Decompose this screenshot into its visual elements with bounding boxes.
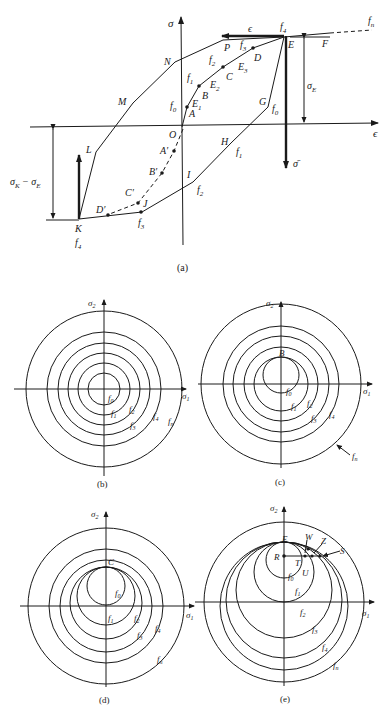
label-H: H [220, 136, 229, 147]
panel-b-isotropic: σ2 σ1 f0 f1 f2 f3 f4 fn (b) [14, 298, 189, 489]
caption-d: (d) [99, 695, 110, 705]
sigma-K-minus-E-label: σK − σE [10, 176, 41, 190]
point-C-d: C [108, 557, 115, 567]
label-f0-lower: f0 [272, 103, 279, 117]
epsilon-axis [30, 123, 378, 127]
sigma-axis-label: σ [168, 17, 174, 29]
sigma1-label-b: σ1 [182, 391, 189, 402]
path-F-fn [330, 30, 372, 33]
label-P: P [223, 42, 230, 53]
point-C [221, 65, 225, 69]
label-S: S [340, 546, 345, 556]
label-f1-e: f1 [295, 586, 301, 597]
path-E-F [284, 33, 330, 37]
label-f1-d: f1 [108, 613, 114, 624]
sigma2-label-d: σ2 [91, 509, 98, 520]
label-W: W [305, 532, 314, 542]
sigma-bar-label: σ̄ [293, 158, 301, 169]
label-f0-c: f0 [286, 386, 292, 397]
label-U: U [302, 568, 309, 578]
panel-d-kinematic-C: C σ2 σ1 f0 f1 f2 f3 f4 fn (d) [20, 509, 194, 705]
point-W [306, 547, 309, 550]
label-fn: fn [368, 15, 375, 29]
label-B-prime: B′ [149, 166, 158, 177]
label-J: J [143, 198, 148, 209]
point-R [282, 554, 286, 558]
sigma1-label-e: σ1 [362, 608, 369, 619]
label-f3-d: f3 [137, 630, 143, 641]
point-U [310, 554, 313, 557]
label-T: T [295, 558, 301, 568]
caption-a: (a) [177, 262, 188, 274]
label-f4-e: f4 [322, 642, 328, 653]
label-f4-c: f4 [329, 409, 335, 420]
label-f4-upper: f4 [280, 21, 287, 35]
label-f0-b: f0 [108, 393, 114, 404]
label-E2: E2 [209, 79, 220, 93]
sigma1-label-d: σ1 [186, 610, 193, 621]
sigma2-label-e: σ2 [270, 503, 277, 514]
label-f2-c: f2 [307, 398, 313, 409]
label-Z: Z [321, 536, 327, 546]
label-I: I [186, 169, 191, 180]
label-f0-e: f0 [288, 571, 294, 582]
label-E: E [287, 39, 294, 50]
panel-e-kinematic-E: E R T U W Z S σ2 σ1 f0 f1 f2 f3 f4 fn (e… [195, 503, 374, 704]
loading-path [182, 37, 284, 127]
label-f2-b: f2 [129, 404, 135, 415]
label-E-e: E [281, 534, 288, 544]
point-D-prime [106, 213, 110, 217]
label-fn-d: fn [157, 654, 163, 665]
label-D-prime: D′ [95, 204, 106, 215]
label-F: F [321, 38, 329, 49]
label-f1-c: f1 [291, 401, 297, 412]
point-D [251, 46, 255, 50]
label-f3-upper: f3 [240, 39, 247, 53]
label-A: A [188, 108, 196, 119]
caption-e: (e) [280, 694, 290, 704]
label-f2-e: f2 [300, 607, 306, 618]
caption-c: (c) [275, 477, 285, 487]
label-fn-c: fn [352, 451, 358, 462]
label-K: K [74, 223, 83, 234]
point-S [318, 554, 321, 557]
label-f1-upper: f1 [187, 72, 193, 86]
label-fn-b: fn [168, 416, 174, 427]
point-B-c: B [279, 348, 285, 358]
point-B-prime [160, 171, 164, 175]
label-E3: E3 [237, 61, 248, 75]
label-f2-upper: f2 [209, 54, 216, 68]
label-L: L [85, 144, 92, 155]
strain-arrow-label: ϵ [248, 23, 253, 34]
sigma2-label-b: σ2 [88, 298, 95, 309]
label-f3-b: f3 [130, 420, 136, 431]
label-C-prime: C′ [125, 187, 135, 198]
epsilon-axis-label: ϵ [373, 127, 378, 139]
label-D: D [253, 52, 262, 63]
label-N: N [163, 56, 172, 67]
panel-c-kinematic-B: B σ2 σ1 f0 f1 f2 f3 f4 fn (c) [198, 298, 372, 487]
label-f3-c: f3 [311, 413, 317, 424]
panel-a-point-labels: O A B C D E F G H I J K L M N P A′ B′ C′… [74, 15, 375, 251]
label-f4-lower: f4 [75, 237, 82, 251]
label-O: O [169, 129, 176, 140]
yield-surface-figure: σ ϵ ϵ σ̄ σE σK − σE [0, 0, 391, 717]
caption-b: (b) [97, 479, 108, 489]
label-A-prime: A′ [159, 145, 169, 156]
label-f0-d: f0 [115, 588, 121, 599]
point-B [197, 84, 201, 88]
label-C: C [226, 71, 233, 82]
sigma2-label-c: σ2 [266, 298, 273, 309]
label-M: M [117, 96, 127, 107]
sigma1-label-c: σ1 [363, 386, 370, 397]
label-f2-lower: f2 [197, 184, 204, 198]
fn-pointer-c [337, 445, 350, 455]
label-f1-lower: f1 [236, 146, 242, 160]
sigma-E-label: σE [307, 80, 317, 94]
panel-a-stress-strain: σ ϵ ϵ σ̄ σE σK − σE [10, 15, 378, 274]
label-B: B [202, 90, 208, 101]
point-C-prime [136, 201, 140, 205]
S-pointer [323, 551, 340, 556]
point-A-prime [172, 149, 176, 153]
label-f3-lower: f3 [138, 217, 145, 231]
